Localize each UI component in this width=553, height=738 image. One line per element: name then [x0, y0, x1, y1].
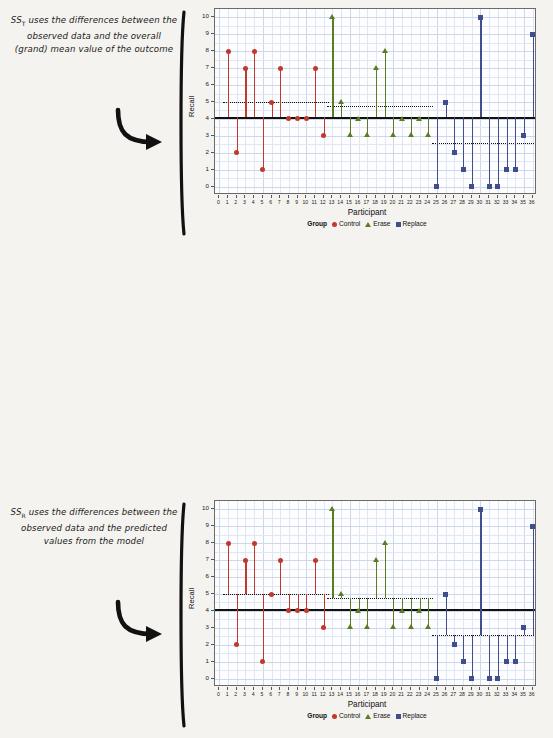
plot-ss-residual: Recall0123456789100123456789101112131415…: [188, 492, 546, 738]
x-tick-mark: [279, 687, 280, 690]
stem-control: [237, 594, 238, 645]
stem-control: [324, 594, 325, 628]
y-tick-label: 2: [195, 640, 209, 647]
stem-erase: [341, 102, 342, 117]
stem-control: [245, 68, 246, 117]
x-tick-mark: [244, 687, 245, 690]
data-point-erase: [373, 557, 379, 562]
x-tick-label: 36: [526, 199, 538, 205]
data-point-control: [295, 116, 300, 121]
stem-replace: [446, 594, 447, 635]
legend-title: Group: [307, 712, 327, 719]
data-point-control: [260, 167, 265, 172]
stem-control: [315, 68, 316, 117]
y-tick-mark: [211, 152, 214, 153]
gridline-h: [215, 26, 535, 27]
data-point-erase: [347, 624, 353, 629]
x-tick-mark: [297, 687, 298, 690]
y-tick-label: 2: [195, 148, 209, 155]
x-tick-mark: [331, 195, 332, 198]
x-tick-mark: [497, 687, 498, 690]
x-tick-mark: [314, 195, 315, 198]
stem-replace: [489, 635, 490, 679]
y-tick-label: 3: [195, 623, 209, 630]
data-point-replace: [495, 676, 500, 681]
gridline-v: [306, 501, 307, 685]
y-tick-mark: [211, 644, 214, 645]
gridline-h: [215, 77, 535, 78]
data-point-control: [252, 541, 257, 546]
data-point-replace: [478, 15, 483, 20]
x-tick-mark: [305, 195, 306, 198]
x-tick-mark: [253, 687, 254, 690]
x-tick-mark: [366, 195, 367, 198]
gridline-v: [359, 501, 360, 685]
stem-replace: [472, 117, 473, 186]
x-tick-mark: [523, 687, 524, 690]
stem-replace: [463, 117, 464, 169]
y-tick-mark: [211, 508, 214, 509]
data-point-erase: [338, 591, 344, 596]
gridline-v: [324, 501, 325, 685]
data-point-replace: [461, 167, 466, 172]
vertical-bracket: [178, 502, 188, 728]
panel-ss-residual: SSR uses the differences between the obs…: [0, 492, 553, 738]
data-point-replace: [443, 592, 448, 597]
x-tick-mark: [323, 195, 324, 198]
x-tick-mark: [384, 195, 385, 198]
gridline-v: [393, 9, 394, 193]
y-tick-label: 7: [195, 63, 209, 70]
x-tick-mark: [427, 195, 428, 198]
y-tick-label: 6: [195, 80, 209, 87]
gridline-v: [219, 9, 220, 193]
annotation-ss-total: SST uses the differences between the obs…: [10, 14, 178, 55]
x-tick-mark: [227, 687, 228, 690]
y-tick-label: 10: [195, 12, 209, 19]
stem-replace: [454, 117, 455, 153]
stem-erase: [350, 598, 351, 628]
x-tick-mark: [297, 195, 298, 198]
y-tick-label: 0: [195, 182, 209, 189]
data-point-erase: [355, 608, 361, 613]
data-point-replace: [469, 676, 474, 681]
panel-ss-total: SST uses the differences between the obs…: [0, 0, 553, 246]
gridline-v: [289, 9, 290, 193]
x-tick-mark: [288, 687, 289, 690]
legend-marker-replace: [396, 714, 401, 719]
data-point-control: [304, 116, 309, 121]
stem-replace: [437, 117, 438, 186]
gridline-v: [454, 501, 455, 685]
gridline-h: [215, 60, 535, 61]
group-mean-line-replace: [432, 635, 536, 636]
gridline-h: [215, 178, 535, 179]
stem-erase: [376, 68, 377, 117]
legend-marker-control: [332, 222, 337, 227]
x-tick-mark: [401, 195, 402, 198]
gridline-v: [428, 9, 429, 193]
y-tick-label: 5: [195, 97, 209, 104]
data-point-erase: [399, 116, 405, 121]
x-tick-mark: [453, 195, 454, 198]
x-tick-mark: [340, 195, 341, 198]
stem-control: [315, 560, 316, 594]
plot-area: [214, 500, 536, 686]
x-tick-mark: [410, 195, 411, 198]
gridline-h: [215, 552, 535, 553]
stem-replace: [489, 117, 490, 186]
data-point-erase: [364, 624, 370, 629]
legend-title: Group: [307, 220, 327, 227]
chart-legend: GroupControlEraseReplace: [188, 220, 546, 227]
y-tick-mark: [211, 186, 214, 187]
data-point-replace: [487, 184, 492, 189]
x-tick-mark: [419, 195, 420, 198]
gridline-v: [237, 501, 238, 685]
data-point-erase: [347, 132, 353, 137]
stem-replace: [507, 117, 508, 169]
gridline-h: [215, 670, 535, 671]
stem-erase: [393, 598, 394, 628]
x-tick-mark: [462, 687, 463, 690]
data-point-control: [286, 116, 291, 121]
data-point-erase: [329, 506, 335, 511]
y-tick-mark: [211, 627, 214, 628]
x-tick-mark: [453, 687, 454, 690]
